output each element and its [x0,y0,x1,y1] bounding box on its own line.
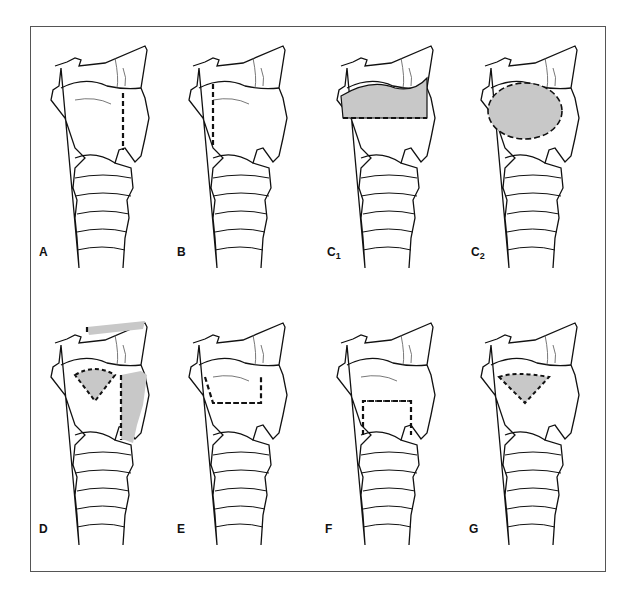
larynx-illustration [331,315,441,560]
panel-label: E [177,522,185,536]
panel-label: F [325,522,332,536]
panel-c1: C1 [331,38,441,283]
panel-b: B [183,38,293,283]
larynx-illustration [183,315,293,560]
panel-g: G [475,315,585,560]
panel-f: F [331,315,441,560]
panel-a: A [45,38,155,283]
larynx-illustration [475,38,585,283]
panel-c2: C2 [475,38,585,283]
panel-d: D [45,315,155,560]
larynx-illustration [45,38,155,283]
larynx-illustration [183,38,293,283]
larynx-illustration [475,315,585,560]
panel-label: C1 [327,245,341,261]
panel-label: G [469,522,478,536]
panel-label: D [39,522,48,536]
larynx-illustration [331,38,441,283]
panel-label: A [39,245,48,259]
panel-label: C2 [471,245,485,261]
panel-label: B [177,245,186,259]
larynx-illustration [45,315,155,560]
panel-e: E [183,315,293,560]
